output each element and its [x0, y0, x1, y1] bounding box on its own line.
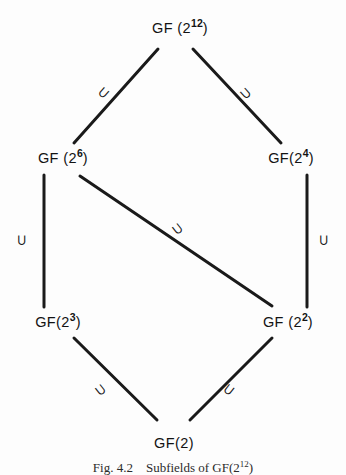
node-close-paren: ) [308, 314, 313, 330]
lattice-node-gf2_2: GF (22) [263, 314, 313, 330]
lattice-node-gf2_3: GF(23) [35, 314, 81, 330]
lattice-node-gf2: GF(2) [154, 435, 194, 451]
lattice-node-gf2_4: GF(24) [268, 150, 314, 166]
node-exponent: 12 [191, 17, 203, 29]
edge-label-superset-lbl-6-3: ⊃ [13, 234, 31, 247]
node-base-text: GF (2 [263, 314, 302, 330]
node-base-text: GF(2 [35, 314, 70, 330]
figure-caption: Fig. 4.2 Subfields of GF(212) [0, 460, 346, 475]
node-close-paren: ) [309, 150, 314, 166]
node-close-paren: ) [76, 314, 81, 330]
lattice-edge-gf2_2-to-gf2 [190, 338, 272, 420]
figure-container: GF (212)GF (26)GF(24)GF(23)GF (22)GF(2) … [0, 0, 346, 475]
lattice-node-gf2_12: GF (212) [152, 20, 208, 36]
figure-caption-spacer [136, 460, 143, 475]
lattice-edge-gf2_12-to-gf2_6 [74, 49, 158, 143]
edge-label-superset-lbl-4-2: ⊃ [315, 234, 333, 247]
node-base-text: GF (2 [152, 20, 191, 36]
node-base-text: GF (2 [38, 150, 77, 166]
figure-caption-suffix: ) [249, 460, 253, 475]
node-close-paren: ) [83, 150, 88, 166]
lattice-node-gf2_6: GF (26) [38, 150, 88, 166]
figure-caption-number: Fig. 4.2 [93, 460, 133, 475]
node-close-paren: ) [203, 20, 208, 36]
node-base-text: GF(2) [154, 435, 194, 451]
node-base-text: GF(2 [268, 150, 303, 166]
lattice-edge-gf2_6-to-gf2_2 [80, 176, 272, 306]
figure-caption-exponent: 12 [240, 459, 249, 469]
lattice-edge-gf2_3-to-gf2 [74, 338, 157, 420]
figure-caption-text: Subfields of GF(2 [146, 460, 240, 475]
